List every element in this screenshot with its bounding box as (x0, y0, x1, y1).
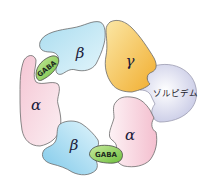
alpha-left-label: α (31, 96, 41, 114)
zolpidem-label: ゾルピデム (153, 88, 198, 98)
alpha-right-label: α (125, 126, 135, 144)
beta-bottom-label: β (69, 136, 79, 154)
gaba-site-left: GABA (36, 56, 59, 81)
gaba-bottom-label: GABA (95, 151, 117, 159)
beta-top-label: β (75, 44, 85, 62)
gamma-label: γ (126, 52, 135, 70)
gaba-receptor-diagram: ゾルピデム β γ α GABA α β GABA (0, 0, 209, 189)
